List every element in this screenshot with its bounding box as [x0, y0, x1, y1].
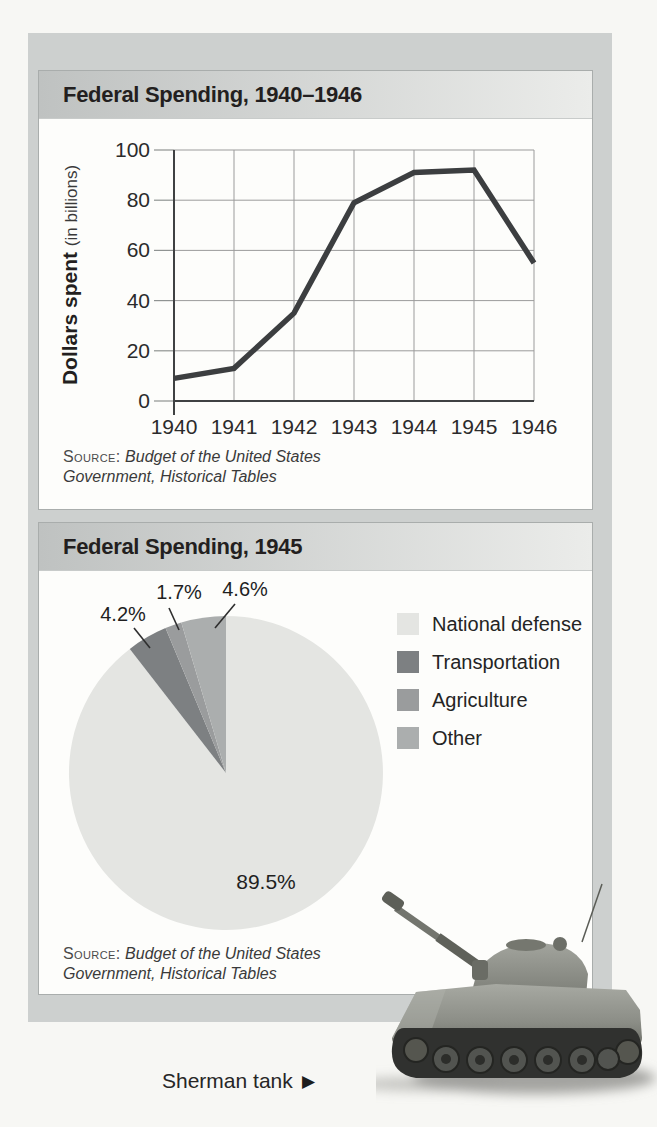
- x-tick-label: 1944: [391, 415, 438, 438]
- legend-swatch: [397, 689, 419, 711]
- y-tick-label: 0: [138, 389, 150, 412]
- legend-label: Agriculture: [432, 689, 528, 712]
- legend-item-transportation: Transportation: [397, 643, 582, 681]
- y-tick-label: 20: [127, 339, 150, 362]
- pie-percent-label: 89.5%: [236, 870, 296, 893]
- sherman-tank-image: [376, 878, 657, 1113]
- x-tick-label: 1940: [151, 415, 198, 438]
- pie-chart-titlebar: Federal Spending, 1945: [39, 523, 592, 571]
- caption-arrow-icon: ▶: [302, 1073, 315, 1090]
- legend-label: Transportation: [432, 651, 560, 674]
- x-tick-label: 1941: [211, 415, 258, 438]
- pie-percent-label: 4.2%: [100, 603, 146, 625]
- y-tick-label: 80: [127, 188, 150, 211]
- source-label: Source:: [63, 448, 121, 465]
- legend-swatch: [397, 651, 419, 673]
- legend-label: Other: [432, 727, 482, 750]
- photo-caption: Sherman tank ▶: [162, 1069, 315, 1093]
- pie-chart-title: Federal Spending, 1945: [63, 534, 302, 560]
- x-tick-label: 1943: [331, 415, 378, 438]
- x-tick-label: 1942: [271, 415, 318, 438]
- line-chart-title: Federal Spending, 1940–1946: [63, 82, 362, 108]
- tank-gun: [381, 890, 482, 968]
- line-chart: 0204060801001940194119421943194419451946…: [39, 119, 592, 441]
- legend-item-national-defense: National defense: [397, 605, 582, 643]
- line-chart-area: 0204060801001940194119421943194419451946…: [39, 119, 592, 441]
- line-chart-titlebar: Federal Spending, 1940–1946: [39, 71, 592, 119]
- y-tick-label: 60: [127, 238, 150, 261]
- tank-tracks: [392, 1028, 642, 1078]
- legend-label: National defense: [432, 613, 582, 636]
- pie-percent-label: 1.7%: [156, 581, 202, 603]
- x-tick-label: 1946: [511, 415, 558, 438]
- legend-swatch: [397, 613, 419, 635]
- x-tick-label: 1945: [451, 415, 498, 438]
- legend-item-agriculture: Agriculture: [397, 681, 582, 719]
- pie-percent-label: 4.6%: [222, 578, 268, 600]
- line-chart-card: Federal Spending, 1940–1946 020406080100…: [38, 70, 593, 510]
- tank-antenna: [582, 884, 602, 942]
- source-label: Source:: [63, 945, 121, 962]
- legend-swatch: [397, 727, 419, 749]
- line-chart-source: Source: Budget of the United States Gove…: [63, 447, 408, 487]
- legend-item-other: Other: [397, 719, 582, 757]
- y-tick-label: 40: [127, 289, 150, 312]
- pie-legend: National defenseTransportationAgricultur…: [397, 605, 582, 757]
- pie-chart-source: Source: Budget of the United States Gove…: [63, 944, 408, 984]
- y-axis-label: Dollars spent (in billions): [58, 165, 81, 385]
- caption-text: Sherman tank: [162, 1069, 293, 1093]
- y-tick-label: 100: [115, 138, 150, 161]
- infographic-panel: Federal Spending, 1940–1946 020406080100…: [28, 33, 612, 1022]
